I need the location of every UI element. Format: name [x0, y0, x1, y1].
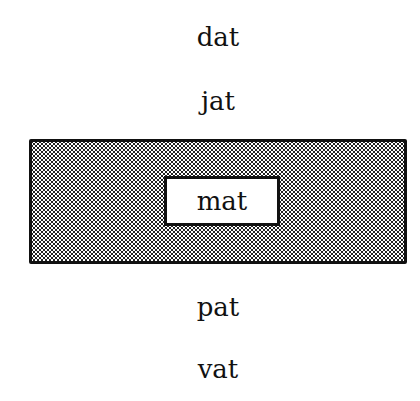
word-dat: dat	[0, 22, 420, 52]
word-vat: vat	[0, 354, 420, 384]
word-jat: jat	[0, 86, 420, 116]
word-pat: pat	[0, 292, 420, 322]
selected-word-box[interactable]: mat	[164, 176, 280, 226]
selection-frame: mat	[29, 139, 407, 264]
word-mat: mat	[197, 186, 248, 216]
